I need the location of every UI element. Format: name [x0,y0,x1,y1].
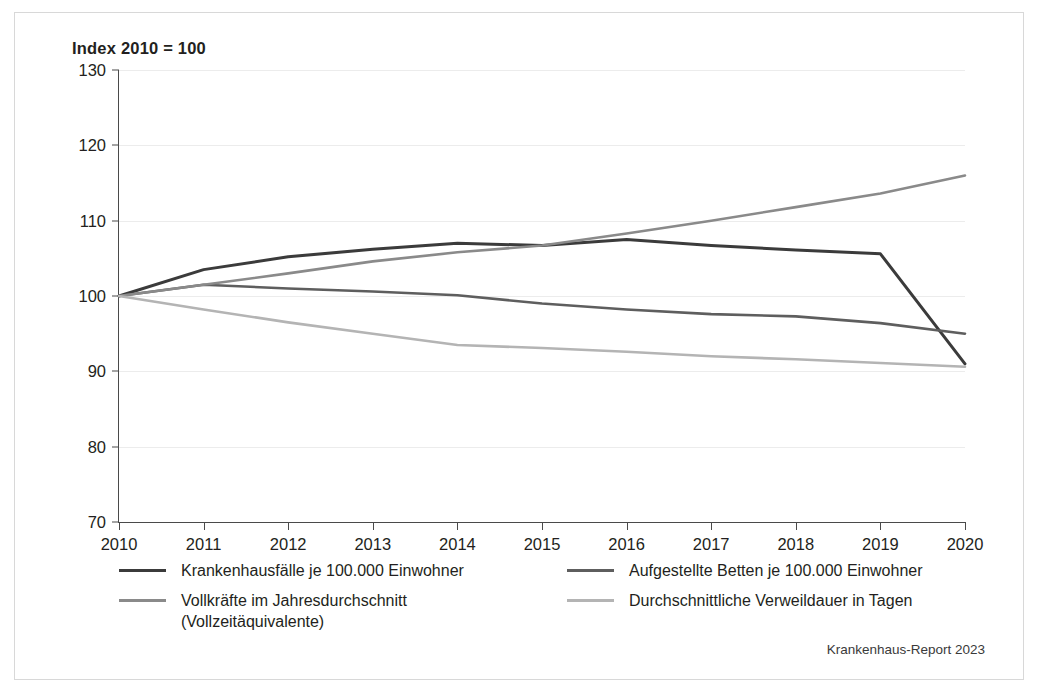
x-tick-label: 2011 [186,535,221,554]
legend-item[interactable]: Aufgestellte Betten je 100.000 Einwohner [567,560,923,581]
y-tick-mark [112,145,119,146]
x-tick-mark [457,522,458,530]
x-tick-mark [796,522,797,530]
legend-item[interactable]: Vollkräfte im Jahresdurchschnitt (Vollze… [119,590,407,632]
x-tick-mark [711,522,712,530]
legend-swatch-icon [119,599,166,602]
source-credit: Krankenhaus-Report 2023 [827,642,985,657]
x-tick-mark [119,522,120,530]
series-line-0 [119,240,965,364]
x-tick-mark [373,522,374,530]
legend-label: Vollkräfte im Jahresdurchschnitt (Vollze… [181,590,407,632]
y-tick-mark [112,522,119,523]
legend-label: Aufgestellte Betten je 100.000 Einwohner [629,560,923,581]
x-tick-label: 2010 [101,535,138,554]
x-tick-label: 2018 [777,535,814,554]
y-tick-label: 100 [78,287,106,306]
x-tick-label: 2015 [524,535,561,554]
x-tick-label: 2020 [947,535,984,554]
y-tick-label: 70 [88,513,106,532]
legend-label: Krankenhausfälle je 100.000 Einwohner [181,560,464,581]
x-tick-mark [288,522,289,530]
y-tick-label: 130 [78,61,106,80]
series-line-1 [119,285,965,334]
x-tick-mark [627,522,628,530]
x-tick-label: 2013 [354,535,391,554]
x-tick-label: 2012 [270,535,307,554]
legend-swatch-icon [567,569,614,572]
x-tick-label: 2017 [693,535,730,554]
x-tick-label: 2019 [862,535,899,554]
x-tick-mark [965,522,966,530]
legend-swatch-icon [119,569,166,572]
plot-area: 708090100110120130 201020112012201320142… [119,70,965,522]
y-tick-label: 90 [88,362,106,381]
x-tick-mark [542,522,543,530]
legend-item[interactable]: Durchschnittliche Verweildauer in Tagen [567,590,912,611]
figure-frame: Index 2010 = 100 708090100110120130 2010… [14,12,1024,680]
series-line-3 [119,296,965,367]
y-tick-label: 80 [88,437,106,456]
y-tick-mark [112,220,119,221]
y-tick-mark [112,371,119,372]
legend-swatch-icon [567,599,614,602]
chart-title: Index 2010 = 100 [72,39,206,58]
x-tick-label: 2014 [439,535,476,554]
x-tick-label: 2016 [608,535,645,554]
x-tick-mark [204,522,205,530]
series-line-2 [119,175,965,296]
series-lines [119,70,965,522]
legend-item[interactable]: Krankenhausfälle je 100.000 Einwohner [119,560,464,581]
y-tick-label: 120 [78,136,106,155]
legend-label: Durchschnittliche Verweildauer in Tagen [629,590,912,611]
x-tick-mark [880,522,881,530]
y-tick-mark [112,70,119,71]
y-tick-mark [112,446,119,447]
y-tick-label: 110 [80,211,106,230]
